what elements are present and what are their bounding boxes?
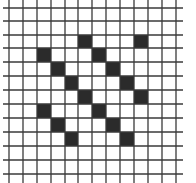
- filled-cell: [78, 90, 92, 104]
- pixel-grid: [0, 0, 196, 183]
- filled-cell: [37, 48, 51, 62]
- filled-cell: [51, 118, 65, 132]
- filled-cell: [106, 118, 120, 132]
- filled-cell: [78, 35, 92, 48]
- filled-cell: [134, 90, 148, 104]
- filled-cell: [37, 104, 51, 118]
- filled-cell: [120, 132, 134, 146]
- filled-cell: [92, 48, 106, 62]
- filled-cell: [134, 35, 148, 48]
- filled-cell: [65, 76, 78, 90]
- filled-cell: [92, 104, 106, 118]
- filled-cell: [65, 132, 78, 146]
- filled-cell: [51, 62, 65, 76]
- filled-cell: [106, 62, 120, 76]
- filled-cell: [120, 76, 134, 90]
